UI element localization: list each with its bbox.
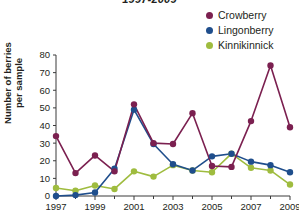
- series-line-lingonberry: [56, 110, 290, 196]
- data-point-crowberry-2007: [248, 118, 254, 124]
- y-axis-tick-label: 0: [45, 190, 50, 201]
- y-axis-tick-label: 80: [39, 49, 50, 60]
- x-axis: 1997199920012003200520072009: [45, 196, 299, 212]
- data-point-lingonberry-2007: [248, 158, 254, 164]
- y-axis-tick-label: 50: [39, 102, 50, 113]
- x-axis-tick-label: 2009: [279, 201, 299, 212]
- data-point-lingonberry-2005: [209, 153, 215, 159]
- y-axis-tick-label: 40: [39, 120, 50, 131]
- data-point-kinnikinnick-2009: [287, 181, 293, 187]
- data-point-crowberry-1997: [53, 133, 59, 139]
- x-axis-tick-label: 2001: [123, 201, 144, 212]
- data-point-crowberry-2005: [209, 163, 215, 169]
- data-point-lingonberry-2003: [170, 161, 176, 167]
- data-point-kinnikinnick-2002: [150, 173, 156, 179]
- x-axis-tick-label: 2003: [162, 201, 183, 212]
- y-axis-tick-label: 60: [39, 85, 50, 96]
- data-point-lingonberry-2008: [267, 162, 273, 168]
- data-point-crowberry-2001: [131, 101, 137, 107]
- x-axis-tick-label: 1997: [45, 201, 66, 212]
- x-axis-tick-label: 2005: [201, 201, 222, 212]
- data-point-lingonberry-1997: [53, 193, 59, 199]
- data-point-kinnikinnick-2001: [131, 168, 137, 174]
- data-point-crowberry-2009: [287, 124, 293, 130]
- y-axis-tick-label: 20: [39, 155, 50, 166]
- data-point-lingonberry-1999: [92, 189, 98, 195]
- y-axis: 01020304050607080: [39, 49, 56, 201]
- series-line-crowberry: [56, 66, 290, 174]
- data-point-kinnikinnick-2007: [248, 165, 254, 171]
- y-axis-tick-label: 10: [39, 173, 50, 184]
- data-point-crowberry-2002: [150, 140, 156, 146]
- data-point-lingonberry-1998: [72, 192, 78, 198]
- data-series-group: [53, 62, 293, 199]
- y-axis-tick-label: 30: [39, 138, 50, 149]
- data-point-kinnikinnick-1999: [92, 182, 98, 188]
- data-point-crowberry-2006: [228, 164, 234, 170]
- data-point-crowberry-2000: [111, 168, 117, 174]
- berry-count-line-chart: 1997-2009 Crowberry Lingonberry Kinnikin…: [0, 0, 299, 216]
- data-point-kinnikinnick-2005: [209, 169, 215, 175]
- data-point-crowberry-1998: [72, 170, 78, 176]
- data-point-crowberry-2004: [189, 110, 195, 116]
- data-point-lingonberry-2006: [228, 151, 234, 157]
- plot-area: 01020304050607080 1997199920012003200520…: [0, 0, 299, 216]
- data-point-crowberry-1999: [92, 152, 98, 158]
- x-axis-tick-label: 1999: [84, 201, 105, 212]
- x-axis-tick-label: 2007: [240, 201, 261, 212]
- data-point-kinnikinnick-1997: [53, 185, 59, 191]
- data-point-crowberry-2008: [267, 62, 273, 68]
- data-point-lingonberry-2004: [189, 167, 195, 173]
- data-point-lingonberry-2009: [287, 169, 293, 175]
- data-point-kinnikinnick-2000: [111, 186, 117, 192]
- data-point-crowberry-2003: [170, 141, 176, 147]
- y-axis-tick-label: 70: [39, 67, 50, 78]
